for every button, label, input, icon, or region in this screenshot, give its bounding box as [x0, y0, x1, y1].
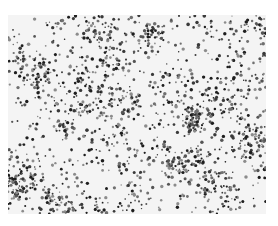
micrograph-image [8, 15, 266, 214]
particle-field [8, 15, 266, 214]
